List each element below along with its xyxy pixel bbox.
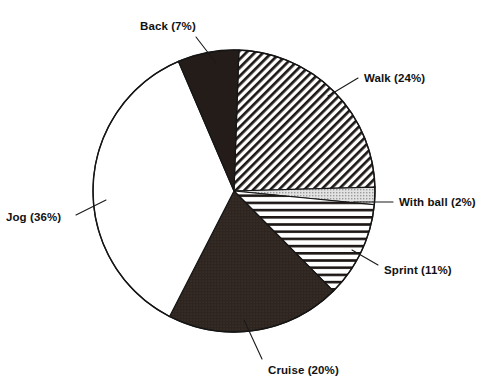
slice-label-with-ball: With ball (2%) [399, 196, 476, 208]
pie-slice-walk [234, 50, 375, 191]
slice-label-jog: Jog (36%) [6, 211, 61, 223]
pie-chart-figure: Back (7%) Walk (24%) With ball (2%) Spri… [0, 0, 487, 392]
leader-line-walk [328, 78, 358, 96]
slice-label-back: Back (7%) [140, 20, 196, 32]
slice-label-cruise: Cruise (20%) [268, 364, 339, 376]
slice-label-sprint: Sprint (11%) [384, 264, 452, 276]
pie-chart-svg: Back (7%) Walk (24%) With ball (2%) Spri… [0, 0, 487, 392]
slice-label-walk: Walk (24%) [364, 72, 425, 84]
pie-sectors-group [93, 50, 375, 332]
